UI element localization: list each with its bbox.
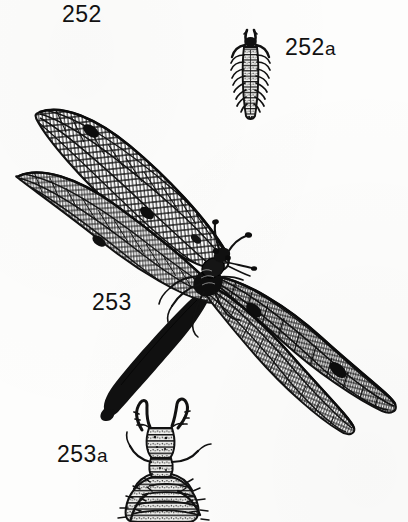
eye <box>213 248 219 254</box>
antenna-club <box>212 219 220 226</box>
wing-lower-right <box>202 284 354 434</box>
pterostigma-spot <box>81 122 102 141</box>
figure-253a-larva <box>118 399 211 522</box>
figure-252a-larva <box>231 30 270 119</box>
head-and-antennae <box>211 219 257 276</box>
figure-label-253a-number: 253 <box>57 441 97 467</box>
figure-label-253a: 253a <box>57 443 108 466</box>
thorax <box>189 254 227 300</box>
figure-label-252a-number: 252 <box>285 34 325 60</box>
wing-lower-left <box>16 172 217 303</box>
wing-upper-right <box>213 276 396 413</box>
legs <box>159 276 243 337</box>
figure-label-252a-suffix: a <box>325 38 336 59</box>
figure-label-253: 253 <box>92 291 132 314</box>
wing-upper-left <box>36 110 229 272</box>
figure-label-252a: 252a <box>285 36 336 59</box>
illustration-plate: 252 252a 253 253a <box>0 0 408 522</box>
figure-253-adult-antlion <box>16 110 396 435</box>
figure-label-253a-suffix: a <box>97 445 108 466</box>
figure-label-252: 252 <box>62 3 102 26</box>
